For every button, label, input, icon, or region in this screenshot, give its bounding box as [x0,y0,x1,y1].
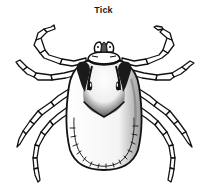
tick-illustration [0,0,207,192]
hypostome [101,42,107,52]
leg-1-right [122,26,174,66]
leg-1-left [34,25,86,66]
eye-right [116,82,120,91]
leg-3-left [17,87,74,147]
leg-3-right [134,87,192,147]
tick-body [67,58,142,170]
tick-head [88,42,120,65]
eye-left [88,82,92,91]
